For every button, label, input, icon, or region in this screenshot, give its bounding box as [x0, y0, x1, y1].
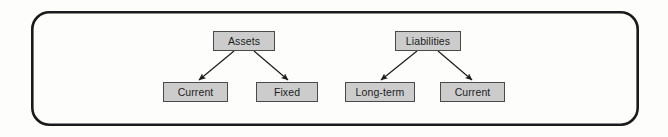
node-liabilities-label: Liabilities	[406, 35, 450, 46]
diagram-canvas: Assets Current Fixed Liabilities Long-te…	[0, 0, 668, 137]
diagram-vector-layer	[0, 0, 668, 137]
node-assets-fixed: Fixed	[256, 82, 318, 102]
node-assets-current: Current	[163, 82, 228, 102]
node-assets-label: Assets	[228, 35, 260, 46]
diagram-frame-border	[32, 12, 637, 124]
node-liabilities-current-label: Current	[455, 86, 491, 97]
node-liabilities-long-term: Long-term	[345, 82, 415, 102]
node-assets: Assets	[213, 31, 275, 51]
node-assets-current-label: Current	[178, 86, 214, 97]
node-liabilities-current: Current	[440, 82, 505, 102]
node-liabilities-long-term-label: Long-term	[356, 86, 405, 97]
node-liabilities: Liabilities	[395, 31, 461, 51]
node-assets-fixed-label: Fixed	[274, 86, 300, 97]
